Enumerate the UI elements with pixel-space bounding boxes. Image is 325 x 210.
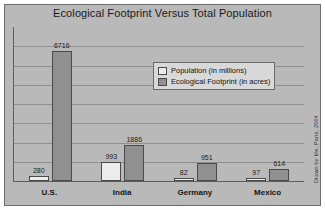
bar-value-label: 1886 <box>126 136 142 144</box>
bar-footprint[interactable] <box>269 169 289 181</box>
credit-line: Drawn by Me, Paris, 2004 <box>313 115 319 183</box>
bar-value-label: 951 <box>201 154 213 162</box>
category-axis: U.S.IndiaGermanyMexico <box>13 185 304 201</box>
bar-population[interactable] <box>101 162 121 181</box>
bar-value-label: 614 <box>273 160 285 168</box>
bar-value-label: 6716 <box>54 42 70 50</box>
bar-column: 280 <box>29 27 49 181</box>
bar-groups: 280671699318868295197614 <box>14 27 304 181</box>
bar-column: 1886 <box>124 27 144 181</box>
bar-column: 614 <box>269 27 289 181</box>
bar-footprint[interactable] <box>52 51 72 181</box>
bar-column: 6716 <box>52 27 72 181</box>
bar-population[interactable] <box>174 178 194 181</box>
plot-area: 280671699318868295197614 <box>13 27 304 182</box>
bar-column: 951 <box>197 27 217 181</box>
bar-column: 82 <box>174 27 194 181</box>
bar-value-label: 993 <box>105 153 117 161</box>
category-label-u-s: U.S. <box>13 185 86 201</box>
legend-swatch-footprint-icon <box>158 78 167 86</box>
category-label-mexico: Mexico <box>231 185 304 201</box>
bar-column: 97 <box>246 27 266 181</box>
bar-footprint[interactable] <box>124 145 144 181</box>
bar-population[interactable] <box>29 176 49 181</box>
bar-column: 993 <box>101 27 121 181</box>
category-label-india: India <box>86 185 159 201</box>
chart-title: Ecological Footprint Versus Total Popula… <box>5 7 320 19</box>
legend-swatch-population-icon <box>158 67 167 75</box>
bar-value-label: 280 <box>33 167 45 175</box>
chart-legend: Population (in millions) Ecological Foot… <box>153 62 275 90</box>
bar-footprint[interactable] <box>197 163 217 181</box>
bar-group: 2806716 <box>14 27 87 181</box>
legend-item-population: Population (in millions) <box>158 66 270 75</box>
legend-item-footprint: Ecological Footprint (in acres) <box>158 77 270 86</box>
legend-label-footprint: Ecological Footprint (in acres) <box>171 77 270 86</box>
chart-frame: Ecological Footprint Versus Total Popula… <box>0 0 325 210</box>
legend-label-population: Population (in millions) <box>171 66 246 75</box>
bar-group: 82951 <box>159 27 232 181</box>
bar-population[interactable] <box>246 178 266 181</box>
bar-value-label: 97 <box>252 169 260 177</box>
bar-group: 9931886 <box>87 27 160 181</box>
chart-panel: Ecological Footprint Versus Total Popula… <box>4 4 321 206</box>
bar-group: 97614 <box>232 27 305 181</box>
bar-value-label: 82 <box>180 169 188 177</box>
category-label-germany: Germany <box>159 185 232 201</box>
